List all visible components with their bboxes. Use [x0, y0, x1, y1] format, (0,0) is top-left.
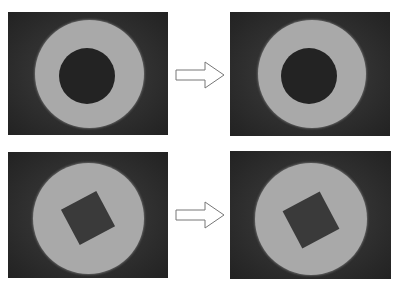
right-arrow-icon [174, 200, 228, 230]
square-hole-after-image [230, 151, 391, 279]
ring-after-image [230, 12, 390, 136]
square-hole-before-image [8, 152, 168, 278]
right-arrow-icon [174, 60, 228, 90]
ring-before-image [8, 12, 168, 135]
inner-hole [281, 48, 337, 104]
inner-hole [59, 48, 115, 104]
